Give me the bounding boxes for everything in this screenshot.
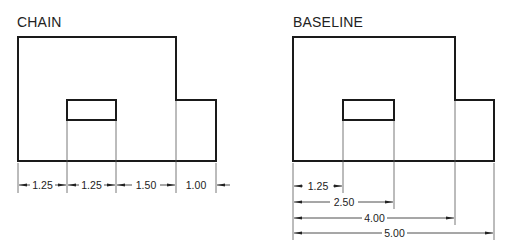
chain-dim-1: 1.25 bbox=[32, 179, 53, 191]
baseline-dimension-lines bbox=[294, 186, 493, 233]
chain-dim-2: 1.25 bbox=[81, 179, 102, 191]
baseline-dim-2: 2.50 bbox=[334, 196, 355, 208]
baseline-dim-3: 4.00 bbox=[364, 212, 385, 224]
baseline-dim-1: 1.25 bbox=[308, 180, 329, 192]
baseline-dim-4: 5.00 bbox=[384, 227, 405, 239]
chain-part-outline bbox=[18, 37, 216, 161]
baseline-part-outline bbox=[293, 37, 494, 161]
dimensioning-drawing: 1.25 1.25 1.50 1.00 1.25 2.50 4.00 5.00 bbox=[0, 0, 512, 249]
chain-dim-4: 1.00 bbox=[186, 179, 207, 191]
chain-dim-3: 1.50 bbox=[136, 179, 157, 191]
baseline-extension-lines bbox=[293, 101, 494, 240]
